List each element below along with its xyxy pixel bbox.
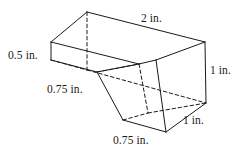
edge-top-left [51, 12, 87, 42]
edge-notch-front-right-vertical [156, 60, 166, 132]
dimension-label-top-length: 2 in. [141, 13, 162, 25]
dimension-label-right-height: 1 in. [210, 65, 231, 77]
edge-notch-top-front [139, 60, 156, 64]
edge-right-vertical [205, 42, 206, 103]
dimension-label-notch-bottom-width: 0.75 in. [113, 135, 149, 147]
hidden-edge-notch-floor-back [123, 113, 148, 120]
dimension-label-depth: 1 in. [183, 115, 204, 127]
geometry-figure: 2 in. 0.5 in. 1 in. 0.75 in. 0.75 in. 1 … [0, 0, 240, 158]
hidden-edge-notch-shelf-back [97, 64, 139, 72]
edge-notch-bottom-front [123, 120, 166, 132]
edge-top-front-left [51, 42, 139, 64]
hidden-edge-notch-back-right [148, 103, 206, 113]
dimension-label-left-height: 0.5 in. [8, 50, 38, 62]
hidden-edge-bottom-left-diagonal [51, 60, 87, 70]
dimension-label-notch-top-width: 0.75 in. [47, 84, 83, 96]
edge-top-front-right [156, 42, 205, 60]
hidden-edge-notch-back-vertical [139, 64, 148, 113]
